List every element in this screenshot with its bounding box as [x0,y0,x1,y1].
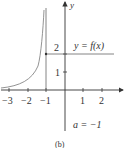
annotation-a: a = −1 [73,119,102,130]
x-tick-label: −2 [21,95,32,106]
closed-point [45,53,47,55]
x-tick-label: −1 [40,95,51,106]
x-tick-label: −3 [2,95,13,106]
x-tick-label: 1 [80,95,85,106]
y-tick-label: 2 [54,42,59,53]
y-tick-label: 1 [55,67,60,78]
graph: y −3 −2 −1 1 2 1 2 y = f(x) a = −1 (b) [0,0,126,148]
function-label: y = f(x) [73,40,105,52]
x-tick-label: 2 [99,95,104,106]
caption: (b) [55,140,65,148]
curve-left-branch [1,10,44,88]
y-axis-label: y [69,0,74,10]
